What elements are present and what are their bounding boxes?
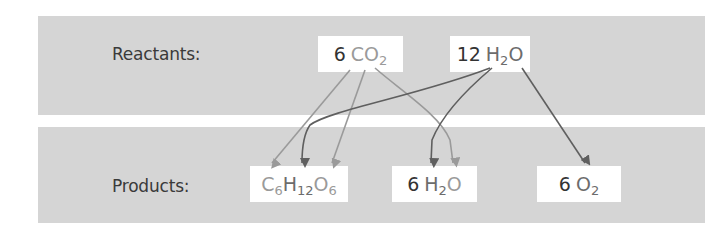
- reactants-label: Reactants:: [112, 44, 200, 64]
- subscript: 2: [379, 53, 387, 68]
- reactant-h2o: 12 H 2 O: [450, 36, 530, 72]
- element-c: C: [261, 173, 274, 195]
- element-o: O: [447, 173, 462, 195]
- element-o: O: [314, 173, 329, 195]
- coefficient: 12: [457, 43, 481, 65]
- product-glucose: C 6 H 12 O 6: [250, 166, 348, 202]
- subscript: 6: [329, 183, 337, 198]
- element-h: H: [283, 173, 297, 195]
- element-h: H: [424, 173, 438, 195]
- element-o: O: [576, 173, 591, 195]
- subscript: 2: [500, 53, 508, 68]
- products-label: Products:: [112, 176, 189, 196]
- element-o: O: [508, 43, 523, 65]
- coefficient: 6: [334, 43, 346, 65]
- coefficient: 6: [407, 173, 419, 195]
- subscript: 2: [439, 183, 447, 198]
- subscript: 12: [297, 183, 314, 198]
- product-o2: 6 O 2: [537, 166, 621, 202]
- subscript: 6: [274, 183, 282, 198]
- element-c: C: [351, 43, 364, 65]
- reactant-co2: 6 C O 2: [318, 36, 403, 72]
- element-h: H: [486, 43, 500, 65]
- product-h2o: 6 H 2 O: [392, 166, 477, 202]
- subscript: 2: [591, 183, 599, 198]
- coefficient: 6: [559, 173, 571, 195]
- element-o: O: [364, 43, 379, 65]
